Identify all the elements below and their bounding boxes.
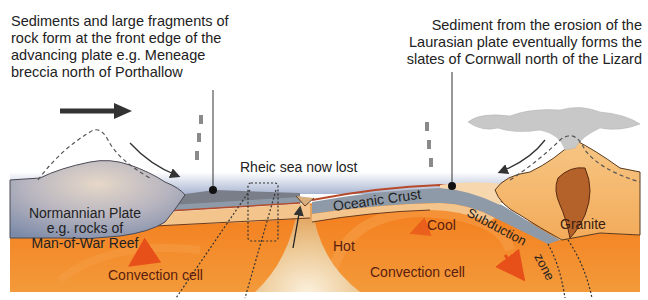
caption-line: advancing plate e.g. Meneage xyxy=(11,47,229,64)
plate-label-line: Normannian Plate xyxy=(15,206,155,221)
caption-line: Laurasian plate eventually forms the xyxy=(407,34,642,51)
label-convection-cell-right: Convection cell xyxy=(370,265,465,279)
subduction-diagram: Sediments and large fragments of rock fo… xyxy=(0,0,648,300)
plate-label-line: e.g. rocks of xyxy=(15,221,155,236)
caption-sediment-left: Sediments and large fragments of rock fo… xyxy=(11,13,229,81)
label-rheic-sea: Rheic sea now lost xyxy=(240,160,358,174)
caption-line: slates of Cornwall north of the Lizard xyxy=(407,51,642,68)
dashed-marker-right xyxy=(425,122,433,167)
caption-line: breccia north of Porthallow xyxy=(11,64,229,81)
label-convection-cell-left: Convection cell xyxy=(108,268,203,282)
label-cool: Cool xyxy=(427,218,456,232)
dashed-marker-left xyxy=(195,115,203,160)
label-hot: Hot xyxy=(333,239,355,253)
plate-label-line: Man-of-War Reef xyxy=(15,236,155,251)
label-granite: Granite xyxy=(560,217,606,231)
caption-line: Sediment from the erosion of the xyxy=(407,17,642,34)
ash-cloud-icon xyxy=(468,107,640,150)
caption-sediment-right: Sediment from the erosion of the Laurasi… xyxy=(407,17,642,68)
label-normannian-plate: Normannian Plate e.g. rocks of Man-of-Wa… xyxy=(15,206,155,251)
caption-line: Sediments and large fragments of xyxy=(11,13,229,30)
caption-line: rock form at the front edge of the xyxy=(11,30,229,47)
